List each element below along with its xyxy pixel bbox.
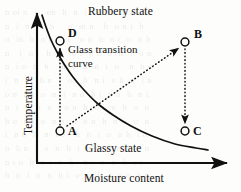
point-label-b: B (194, 27, 202, 42)
region-label-rubbery: Rubbery state (88, 5, 153, 17)
state-point-b (181, 38, 189, 46)
diagram-canvas (0, 0, 241, 192)
curve-label-line2: curve (68, 57, 93, 70)
state-point-a (56, 127, 64, 135)
region-label-glassy: Glassy state (85, 142, 141, 154)
y-axis-label: Temperature (22, 76, 34, 135)
glass-transition-figure: n oi n i on h n i o h n o n i n in h o i… (0, 0, 241, 192)
curve-label-line1: Glass transition (68, 43, 138, 56)
state-point-c (181, 127, 189, 135)
state-point-d (56, 37, 64, 45)
point-label-a: A (68, 124, 77, 139)
x-axis-label: Moisture content (84, 172, 164, 184)
point-label-d: D (68, 26, 77, 41)
point-label-c: C (193, 124, 202, 139)
